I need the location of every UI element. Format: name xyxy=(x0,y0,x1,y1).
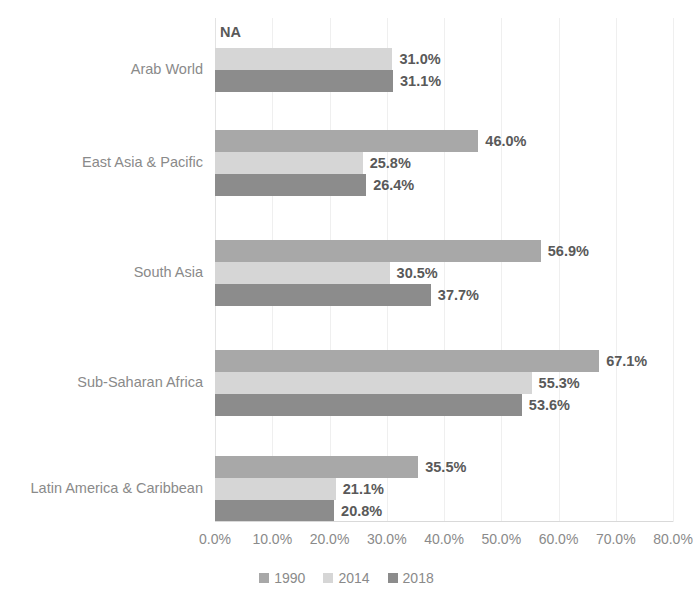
bar-2018 xyxy=(215,284,431,306)
bar-1990 xyxy=(215,350,599,372)
x-tick-label: 0.0% xyxy=(199,531,231,547)
legend-swatch-icon xyxy=(323,573,333,583)
x-tick-label: 40.0% xyxy=(424,531,464,547)
category-label: Sub-Saharan Africa xyxy=(0,374,203,390)
bar-row: 56.9% xyxy=(215,240,673,262)
x-tick-label: 80.0% xyxy=(653,531,693,547)
bar-row: 21.1% xyxy=(215,478,673,500)
bar-value-label: 21.1% xyxy=(343,481,384,497)
x-tick-label: 50.0% xyxy=(481,531,521,547)
x-tick-label: 70.0% xyxy=(596,531,636,547)
x-tick-label: 20.0% xyxy=(310,531,350,547)
bar-2018 xyxy=(215,500,334,522)
bar-1990 xyxy=(215,240,541,262)
legend-item[interactable]: 2018 xyxy=(388,570,434,586)
bar-2018 xyxy=(215,394,522,416)
legend-item[interactable]: 1990 xyxy=(259,570,305,586)
legend-swatch-icon xyxy=(259,573,269,583)
chart-legend: 199020142018 xyxy=(0,570,693,586)
plot-area: Arab WorldNA31.0%31.1%East Asia & Pacifi… xyxy=(215,18,673,522)
category-label: South Asia xyxy=(0,264,203,280)
bar-row: 37.7% xyxy=(215,284,673,306)
bar-row: 25.8% xyxy=(215,152,673,174)
bar-row: 53.6% xyxy=(215,394,673,416)
legend-label: 2018 xyxy=(403,570,434,586)
gridline-80.0 xyxy=(673,18,674,522)
x-tick-label: 60.0% xyxy=(539,531,579,547)
bar-2018 xyxy=(215,70,393,92)
x-tick-label: 10.0% xyxy=(252,531,292,547)
na-annotation: NA xyxy=(220,24,241,40)
legend-item[interactable]: 2014 xyxy=(323,570,369,586)
bar-value-label: 56.9% xyxy=(548,243,589,259)
bar-value-label: 37.7% xyxy=(438,287,479,303)
bar-value-label: 26.4% xyxy=(373,177,414,193)
bar-2014 xyxy=(215,48,392,70)
bar-row: 46.0% xyxy=(215,130,673,152)
legend-label: 1990 xyxy=(274,570,305,586)
bar-value-label: 20.8% xyxy=(341,503,382,519)
bar-value-label: 25.8% xyxy=(370,155,411,171)
bar-value-label: 31.0% xyxy=(399,51,440,67)
legend-swatch-icon xyxy=(388,573,398,583)
x-axis-line xyxy=(215,521,673,522)
bar-value-label: 30.5% xyxy=(397,265,438,281)
bar-2014 xyxy=(215,152,363,174)
category-label: Arab World xyxy=(0,61,203,77)
bar-row: 30.5% xyxy=(215,262,673,284)
bar-value-label: 67.1% xyxy=(606,353,647,369)
bar-2014 xyxy=(215,372,532,394)
bar-chart: Arab WorldNA31.0%31.1%East Asia & Pacifi… xyxy=(0,0,693,599)
legend-label: 2014 xyxy=(338,570,369,586)
bar-row: 35.5% xyxy=(215,456,673,478)
category-label: East Asia & Pacific xyxy=(0,154,203,170)
bar-value-label: 55.3% xyxy=(539,375,580,391)
bar-value-label: 31.1% xyxy=(400,73,441,89)
bar-value-label: 35.5% xyxy=(425,459,466,475)
bar-2014 xyxy=(215,262,390,284)
bar-row: 67.1% xyxy=(215,350,673,372)
bar-1990 xyxy=(215,130,478,152)
bar-row: 31.0% xyxy=(215,48,673,70)
bar-row: 31.1% xyxy=(215,70,673,92)
x-tick-label: 30.0% xyxy=(367,531,407,547)
category-label: Latin America & Caribbean xyxy=(0,480,203,496)
bar-value-label: 53.6% xyxy=(529,397,570,413)
bar-value-label: 46.0% xyxy=(485,133,526,149)
bar-2014 xyxy=(215,478,336,500)
bar-1990 xyxy=(215,456,418,478)
bar-row: 20.8% xyxy=(215,500,673,522)
bar-row: 26.4% xyxy=(215,174,673,196)
bar-2018 xyxy=(215,174,366,196)
bar-row: 55.3% xyxy=(215,372,673,394)
